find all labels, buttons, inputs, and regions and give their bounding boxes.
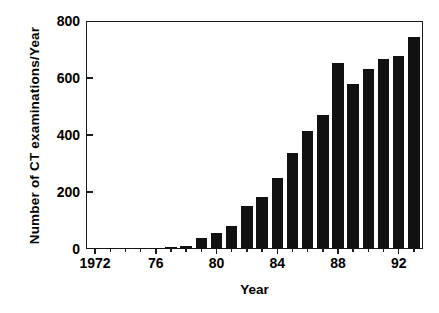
x-tick-mark-minor — [185, 248, 186, 252]
y-tick-label: 600 — [38, 71, 80, 85]
x-tick-mark — [337, 248, 338, 254]
bars-layer — [86, 21, 423, 249]
x-tick-mark-minor — [352, 248, 353, 252]
y-tick-mark — [86, 134, 93, 135]
bars-container — [86, 21, 423, 249]
bar — [241, 206, 253, 249]
x-tick-mark-minor — [231, 248, 232, 252]
x-tick-mark-minor — [201, 248, 202, 252]
x-tick-mark-minor — [261, 248, 262, 252]
bar — [393, 56, 405, 249]
x-tick-label: 1972 — [72, 256, 118, 270]
bar — [378, 59, 390, 249]
bar — [287, 153, 299, 249]
x-tick-mark-minor — [292, 248, 293, 252]
x-tick-mark-minor — [307, 248, 308, 252]
x-tick-label: 88 — [315, 256, 361, 270]
x-tick-label: 80 — [194, 256, 240, 270]
x-tick-mark-minor — [322, 248, 323, 252]
bar — [363, 69, 375, 249]
x-tick-mark-minor — [140, 248, 141, 252]
y-tick-label: 800 — [38, 14, 80, 28]
bar — [332, 63, 344, 249]
y-tick-mark — [86, 191, 93, 192]
x-tick-mark-minor — [246, 248, 247, 252]
bar — [347, 84, 359, 249]
x-tick-mark-minor — [368, 248, 369, 252]
y-tick-label: 200 — [38, 185, 80, 199]
y-tick-label: 400 — [38, 128, 80, 142]
y-tick-label: 0 — [38, 242, 80, 256]
bar — [256, 197, 268, 249]
bar — [302, 131, 314, 249]
bar — [317, 115, 329, 249]
x-tick-mark — [216, 248, 217, 254]
x-tick-mark — [94, 248, 95, 254]
bar — [211, 233, 223, 249]
x-tick-label: 76 — [133, 256, 179, 270]
bar — [226, 226, 238, 249]
x-axis-title: Year — [86, 282, 423, 297]
x-tick-mark-minor — [413, 248, 414, 252]
x-tick-mark-minor — [383, 248, 384, 252]
bar — [272, 178, 284, 249]
x-tick-label: 84 — [254, 256, 300, 270]
x-tick-mark-minor — [110, 248, 111, 252]
x-tick-mark — [277, 248, 278, 254]
x-tick-mark — [398, 248, 399, 254]
y-tick-mark — [86, 77, 93, 78]
x-tick-mark-minor — [170, 248, 171, 252]
ct-examinations-bar-chart: Number of CT examinations/Year 020040060… — [0, 0, 439, 313]
x-tick-mark-minor — [125, 248, 126, 252]
x-tick-mark — [155, 248, 156, 254]
x-tick-label: 92 — [376, 256, 422, 270]
bar — [408, 37, 420, 249]
